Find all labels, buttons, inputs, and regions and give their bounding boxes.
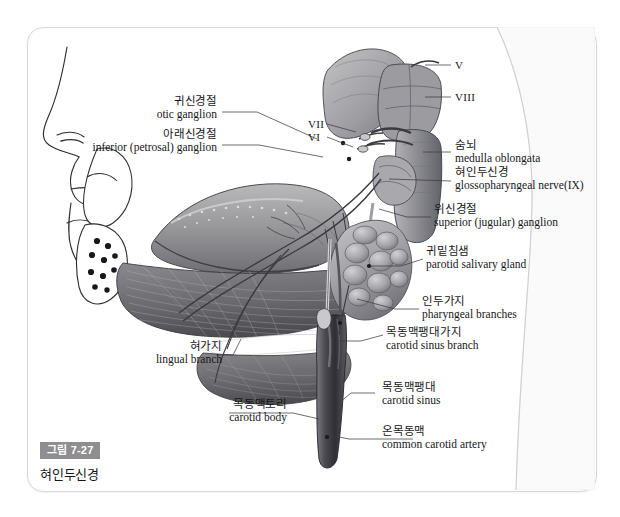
label-common-carotid-artery-ko: 온목동맥 — [382, 425, 487, 438]
label-parotid-gland: 귀밑침샘 parotid salivary gland — [426, 245, 526, 271]
label-pharyngeal-branches-ko: 인두가지 — [422, 295, 517, 308]
label-inferior-ganglion-ko: 아래신경절 — [92, 128, 217, 141]
label-parotid-gland-ko: 귀밑침샘 — [426, 245, 526, 258]
label-carotid-body-ko: 목동맥토리 — [229, 398, 287, 411]
label-common-carotid-artery-en: common carotid artery — [382, 438, 487, 451]
figure-number-badge: 그림 7-27 — [40, 442, 100, 459]
label-carotid-body: 목동맥토리 carotid body — [229, 398, 287, 424]
label-pharyngeal-branches-en: pharyngeal branches — [422, 308, 517, 321]
label-lingual-branch-en: lingual branch — [156, 353, 222, 366]
label-medulla-oblongata-en: medulla oblongata — [455, 152, 540, 165]
figure-caption: 그림 7-27 혀인두신경 — [40, 440, 100, 483]
label-superior-ganglion-ko: 위신경절 — [434, 203, 558, 216]
label-inferior-ganglion-en: inferior (petrosal) ganglion — [92, 141, 217, 154]
label-carotid-sinus-branch-ko: 목동맥팽대가지 — [386, 326, 479, 339]
label-common-carotid-artery: 온목동맥 common carotid artery — [382, 425, 487, 451]
figure-caption-title: 혀인두신경 — [40, 464, 100, 483]
label-medulla-oblongata-ko: 숨뇌 — [455, 139, 540, 152]
label-carotid-body-en: carotid body — [229, 411, 287, 424]
label-carotid-sinus-en: carotid sinus — [382, 394, 440, 407]
label-medulla-oblongata: 숨뇌 medulla oblongata — [455, 139, 540, 165]
numeral-vii-left: VII — [308, 118, 324, 130]
label-lingual-branch: 혀가지 lingual branch — [156, 340, 222, 366]
label-carotid-sinus-ko: 목동맥팽대 — [382, 381, 440, 394]
figure-page: 귀신경절 otic ganglion 아래신경절 inferior (petro… — [0, 0, 620, 517]
label-carotid-sinus: 목동맥팽대 carotid sinus — [382, 381, 440, 407]
label-superior-ganglion-en: superior (jugular) ganglion — [434, 216, 558, 229]
label-carotid-sinus-branch-en: carotid sinus branch — [386, 339, 479, 352]
numeral-viii-right: VIII — [455, 91, 475, 103]
label-otic-ganglion-en: otic ganglion — [157, 108, 217, 121]
numeral-vi-left: VI — [308, 131, 320, 143]
label-carotid-sinus-branch: 목동맥팽대가지 carotid sinus branch — [386, 326, 479, 352]
numeral-v-right: V — [455, 59, 463, 71]
label-otic-ganglion-ko: 귀신경절 — [157, 95, 217, 108]
label-superior-ganglion: 위신경절 superior (jugular) ganglion — [434, 203, 558, 229]
clipped-header-text — [34, 0, 594, 10]
label-glossopharyngeal-nerve-en: glossopharyngeal nerve(IX) — [455, 179, 584, 192]
label-glossopharyngeal-nerve: 혀인두신경 glossopharyngeal nerve(IX) — [455, 166, 584, 192]
label-pharyngeal-branches: 인두가지 pharyngeal branches — [422, 295, 517, 321]
label-glossopharyngeal-nerve-ko: 혀인두신경 — [455, 166, 584, 179]
label-parotid-gland-en: parotid salivary gland — [426, 258, 526, 271]
label-inferior-ganglion: 아래신경절 inferior (petrosal) ganglion — [92, 128, 217, 154]
label-otic-ganglion: 귀신경절 otic ganglion — [157, 95, 217, 121]
label-lingual-branch-ko: 혀가지 — [156, 340, 222, 353]
